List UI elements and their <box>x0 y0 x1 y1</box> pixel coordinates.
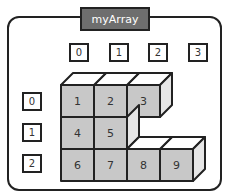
cell-value: 3 <box>140 95 147 108</box>
cell-value: 8 <box>140 159 147 172</box>
cell-value: 7 <box>107 159 114 172</box>
cube-grid: 321549876 <box>0 0 229 196</box>
cell-value: 6 <box>74 159 81 172</box>
cell-value: 4 <box>74 127 81 140</box>
cell-value: 2 <box>107 95 114 108</box>
cell-value: 5 <box>107 127 114 140</box>
cell-value: 9 <box>173 159 180 172</box>
cell-value: 1 <box>74 95 81 108</box>
